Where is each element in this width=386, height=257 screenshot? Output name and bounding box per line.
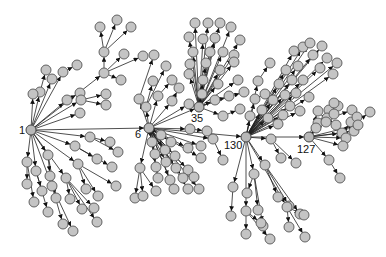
graph-node [311,123,321,133]
graph-node [196,153,206,163]
graph-node [116,75,126,85]
directed-edge [154,109,195,126]
graph-node [289,46,299,56]
graph-node [188,47,198,57]
directed-edge [195,130,202,131]
graph-node [208,134,218,144]
graph-node [210,33,220,43]
graph-node [253,76,263,86]
graph-node [260,160,270,170]
graph-node [47,74,57,84]
graph-node [353,120,363,130]
graph-node [148,76,158,86]
graph-node [218,111,228,121]
hub-label-127: 127 [297,143,315,155]
directed-edge [36,132,71,145]
graph-node [313,106,323,116]
graph-node [171,163,181,173]
graph-node [189,172,199,182]
graph-node [190,18,200,28]
graph-node [58,219,68,229]
graph-node [65,194,75,204]
directed-edge [31,99,32,125]
graph-node [113,147,123,157]
hub-node-127 [304,132,314,142]
hub-node-6 [144,123,154,133]
graph-node [253,205,263,215]
graph-node [213,79,223,89]
graph-node [165,175,175,185]
graph-node [153,91,163,101]
directed-edge [36,128,144,130]
graph-node [338,141,348,151]
directed-edge [141,173,143,191]
graph-node [184,69,194,79]
graph-node [299,210,309,220]
graph-node [285,101,295,111]
graph-node [73,159,83,169]
graph-node [135,163,145,173]
graph-node [335,173,345,183]
graph-node [169,184,179,194]
graph-node [58,67,68,77]
graph-node [76,95,86,105]
graph-node [229,57,239,67]
graph-node [291,88,301,98]
graph-node [77,204,87,214]
graph-node [105,137,115,147]
directed-edge [314,137,341,138]
graph-node [161,157,171,167]
graph-node [43,150,53,160]
hub-label-35: 35 [191,112,203,124]
directed-edge [36,131,85,137]
directed-edge [231,192,232,211]
graph-node [268,95,278,105]
directed-edge [109,75,117,78]
graph-node [282,202,292,212]
directed-edge [153,107,184,126]
graph-node [329,98,339,108]
graph-node [156,130,166,140]
graph-node [315,63,325,73]
graph-node [235,104,245,114]
hub-label-1: 1 [19,124,25,136]
hub-label-6: 6 [135,128,141,140]
graph-node [265,234,275,244]
graph-node [235,35,245,45]
graph-node [249,169,259,179]
graph-node [226,211,236,221]
graph-node [295,106,305,116]
graph-node [185,124,195,134]
directed-edge [108,30,128,48]
graph-node [51,193,61,203]
graph-node [321,117,331,127]
graph-node [43,207,53,217]
hub-label-130: 130 [224,139,242,151]
graph-node [28,89,38,99]
graph-node [263,113,273,123]
graph-node [22,179,32,189]
graph-node [184,32,194,42]
directed-edge [108,57,121,69]
graph-node [170,151,180,161]
directed-edge [143,172,153,187]
directed-edge [161,84,168,92]
graph-node [317,41,327,51]
graph-node [111,181,121,191]
graph-node [92,154,102,164]
graph-node [332,58,342,68]
directed-edge [228,111,236,114]
graph-node [61,173,71,183]
graph-node [150,149,160,159]
graph-node [107,162,117,172]
graph-node [153,173,163,183]
graph-node [273,192,283,202]
graph-node [215,18,225,28]
graph-node [93,191,103,201]
directed-edge [249,179,253,189]
graph-node [174,83,184,93]
graph-node [119,49,129,59]
directed-edge [215,144,221,156]
graph-node [239,87,249,97]
graph-node [138,51,148,61]
